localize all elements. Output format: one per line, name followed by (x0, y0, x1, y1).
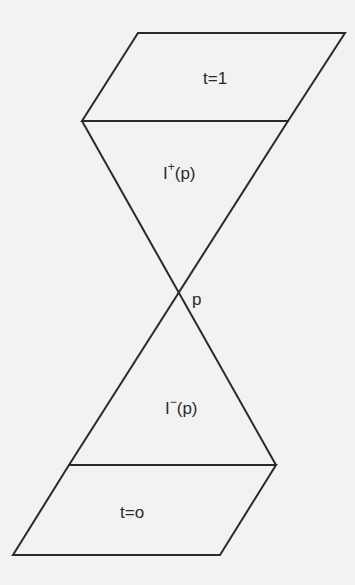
bottom-slice-parallelogram (13, 465, 276, 555)
bottom-slice-label: t=o (120, 503, 144, 523)
past-cone-label-arg: (p) (177, 399, 198, 418)
past-cone-label: I−(p) (165, 399, 198, 419)
future-cone-label-sup: + (168, 160, 175, 174)
past-cone-label-sup: − (170, 395, 177, 409)
top-slice-label: t=1 (203, 69, 227, 89)
diagram-lines (0, 0, 355, 585)
future-cone-label: I+(p) (163, 164, 196, 184)
future-cone-label-arg: (p) (175, 164, 196, 183)
apex-label-p: p (192, 290, 201, 310)
light-cone-diagram: t=1 I+(p) p I−(p) t=o (0, 0, 355, 585)
